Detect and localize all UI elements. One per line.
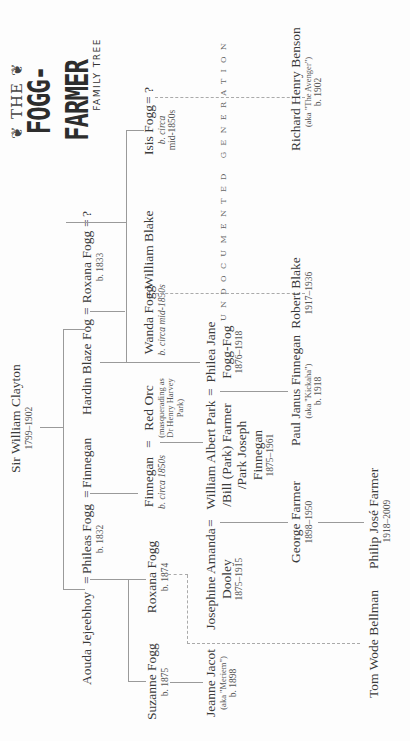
person-philip: Philip José Farmer 1918–2009 — [366, 473, 392, 569]
dashed-connector — [155, 97, 305, 98]
connector-line — [66, 222, 126, 223]
person-name: /Park Joseph — [234, 393, 250, 517]
person-name: /Bill (Park) Farmer — [219, 393, 235, 517]
person-isis: Isis Fogg b. circa mid-1850s — [141, 102, 178, 158]
person-william-clayton: Sir William Clayton 1799–1902 — [8, 383, 34, 473]
person-name: Jeanne Jacot — [203, 649, 218, 717]
connector-line — [40, 427, 63, 428]
person-suzanne: Suzanne Fogg b. 1875 — [144, 644, 170, 720]
person-philea: Philea Jane Fogg-Fog 1876–1918 — [203, 317, 245, 387]
family-tree-canvas: ❦ THE ❦ FOGG-FARMER FAMILY TREE Sir Will… — [0, 0, 410, 741]
marriage-symbol: = — [141, 440, 157, 448]
dashed-connector — [168, 574, 188, 575]
title-main: FOGG-FARMER — [20, 38, 96, 163]
person-dates: 1799–1902 — [24, 383, 35, 473]
person-aka: (aka "Kickaha") — [304, 336, 314, 446]
person-name: George Farmer — [288, 481, 303, 563]
person-name: Philea Jane — [203, 317, 219, 387]
person-name: Hardin Blaze Fog — [79, 319, 94, 415]
person-josephine: Josephine Amanda Dooley 1875–1915 — [203, 525, 245, 633]
dashed-connector — [155, 293, 305, 294]
undocumented-generation-label: UNDOCUMENTED GENERATION — [219, 37, 228, 321]
person-finnegan-sr: Finnegan — [79, 438, 95, 488]
connector-line — [90, 493, 138, 494]
person-name: Aouda Jejeebhoy — [79, 592, 94, 685]
connector-line — [128, 580, 129, 682]
person-dates: b. 1833 — [95, 229, 106, 305]
person-richard-benson: Richard Henry Benson (aka "The Avenger")… — [288, 33, 324, 151]
marriage-symbol: = — [79, 490, 95, 498]
person-name: Roxana Fogg — [79, 231, 94, 303]
person-aouda: Aouda Jejeebhoy — [79, 592, 95, 685]
person-hardin: Hardin Blaze Fog — [79, 319, 95, 415]
person-name: Philip José Farmer — [366, 468, 381, 569]
person-dates: b. 1918 — [313, 336, 324, 446]
connector-line — [63, 589, 85, 590]
person-paul: Paul Janus Finnegan (aka "Kickaha") b. 1… — [288, 336, 324, 446]
person-red-orc: Red Orc (masquerading as Dr Henry Harvey… — [141, 378, 186, 438]
person-dates: 1917–1936 — [304, 255, 315, 331]
person-name: Tom Wode Bellman — [366, 590, 381, 698]
person-dates: mid-1850s — [167, 102, 178, 158]
person-name: Sir William Clayton — [8, 364, 23, 473]
person-dates: b. circa — [157, 102, 168, 158]
marriage-symbol: = — [79, 219, 95, 227]
person-name: William Albert Park — [203, 393, 219, 517]
person-name: Fogg-Fog — [219, 317, 235, 387]
person-dates: 1898–1950 — [304, 481, 315, 563]
person-roxana-jr: Roxana Fogg b. 1874 — [144, 539, 170, 615]
person-name: Finnegan — [79, 438, 94, 488]
person-dates: 1876–1918 — [234, 317, 245, 387]
person-roxana-sr: Roxana Fogg b. 1833 — [79, 229, 105, 305]
person-name: Suzanne Fogg — [144, 643, 159, 720]
person-william-blake: William Blake — [141, 210, 157, 289]
person-dates: 1875–1915 — [234, 525, 245, 633]
person-dates: 1875–1961 — [265, 393, 276, 517]
person-name: Dooley — [219, 525, 235, 633]
person-finnegan-jr: Finnegan b. circa 1850s — [141, 448, 167, 516]
person-unknown-2: ? — [141, 87, 157, 93]
person-dates: b. circa 1850s — [157, 448, 168, 516]
person-aka: (aka "Meriem") — [219, 643, 229, 723]
person-dates: b. 1832 — [95, 501, 106, 577]
connector-line — [90, 311, 125, 312]
person-name: Finnegan — [250, 393, 266, 517]
marriage-symbol: = — [203, 519, 219, 527]
person-tom-bellman: Tom Wode Bellman — [366, 587, 382, 701]
person-name: Paul Janus Finnegan — [288, 335, 303, 446]
person-name: ? — [79, 211, 94, 217]
title-block: ❦ THE ❦ FOGG-FARMER FAMILY TREE — [8, 38, 102, 163]
connector-line — [170, 682, 203, 683]
person-aka: (aka "The Avenger") — [304, 33, 314, 151]
connector-line — [90, 579, 128, 580]
person-name: Richard Henry Benson — [288, 27, 303, 151]
person-name: Red Orc — [141, 385, 156, 430]
connector-line — [100, 362, 200, 363]
person-dates: b. 1898 — [228, 643, 239, 723]
person-name: Phileas Fogg — [79, 504, 94, 574]
person-name: ? — [141, 87, 156, 93]
person-robert-blake: Robert Blake 1917–1936 — [288, 255, 314, 331]
person-note: (masquerading as Dr Henry Harvey Park) — [157, 378, 186, 438]
person-name: Finnegan — [141, 457, 156, 507]
connector-line — [63, 329, 64, 590]
connector-line — [160, 442, 203, 443]
marriage-symbol: = — [203, 388, 219, 396]
person-dates: b. circa mid-1850s — [157, 275, 168, 365]
dashed-connector — [187, 575, 188, 644]
connector-line — [126, 223, 127, 363]
person-jeanne: Jeanne Jacot (aka "Meriem") b. 1898 — [203, 643, 239, 723]
person-phileas: Phileas Fogg b. 1832 — [79, 501, 105, 577]
connector-line — [220, 391, 288, 392]
connector-line — [318, 522, 364, 523]
person-george: George Farmer 1898–1950 — [288, 481, 314, 563]
connector-line — [220, 522, 288, 523]
person-dates: b. 1902 — [313, 33, 324, 151]
person-name: William Blake — [141, 210, 156, 289]
person-name: Roxana Fogg — [144, 541, 159, 613]
person-dates: b. 1875 — [160, 644, 171, 720]
person-dates: b. 1874 — [160, 539, 171, 615]
marriage-symbol: = — [79, 576, 95, 584]
person-name: Isis Fogg — [141, 105, 156, 155]
person-name: Robert Blake — [288, 257, 303, 329]
